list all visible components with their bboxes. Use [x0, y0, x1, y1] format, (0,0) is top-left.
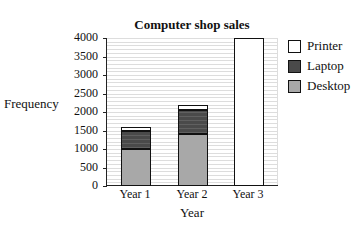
- legend-item-desktop: Desktop: [288, 76, 350, 96]
- y-tick-label: 3000: [58, 67, 98, 82]
- y-tick-label: 4000: [58, 30, 98, 45]
- legend-item-printer: Printer: [288, 36, 350, 56]
- y-tick-label: 1000: [58, 141, 98, 156]
- y-tick-mark: [103, 131, 107, 132]
- bar-year-3: [234, 38, 264, 186]
- gridline: [277, 38, 278, 186]
- bar-segment-laptop: [178, 110, 208, 134]
- y-tick-label: 500: [58, 160, 98, 175]
- legend-swatch: [288, 40, 301, 53]
- x-axis-label: Year: [106, 205, 278, 221]
- legend-label: Printer: [307, 38, 342, 54]
- legend-swatch: [288, 80, 301, 93]
- y-tick-mark: [103, 94, 107, 95]
- legend-swatch: [288, 60, 301, 73]
- y-tick-label: 2500: [58, 86, 98, 101]
- bar-segment-printer: [234, 38, 264, 186]
- y-axis-label: Frequency: [4, 96, 59, 112]
- plot-area: [106, 38, 278, 186]
- y-tick-label: 2000: [58, 104, 98, 119]
- y-tick-mark: [103, 75, 107, 76]
- chart-title: Computer shop sales: [106, 17, 278, 33]
- legend-label: Desktop: [307, 78, 350, 94]
- bar-segment-desktop: [121, 149, 151, 186]
- y-tick-mark: [103, 149, 107, 150]
- y-tick-mark: [103, 112, 107, 113]
- y-tick-label: 0: [58, 178, 98, 193]
- bar-segment-laptop: [121, 131, 151, 150]
- bar-segment-printer: [178, 105, 208, 111]
- legend: PrinterLaptopDesktop: [288, 36, 350, 96]
- y-tick-mark: [103, 168, 107, 169]
- legend-label: Laptop: [307, 58, 344, 74]
- bar-segment-printer: [121, 127, 151, 131]
- x-tick-label: Year 3: [220, 187, 276, 202]
- bar-segment-desktop: [178, 134, 208, 186]
- y-tick-label: 3500: [58, 49, 98, 64]
- x-tick-label: Year 2: [164, 187, 220, 202]
- bar-year-1: [121, 38, 151, 186]
- legend-item-laptop: Laptop: [288, 56, 350, 76]
- y-tick-label: 1500: [58, 123, 98, 138]
- y-tick-mark: [103, 38, 107, 39]
- y-tick-mark: [103, 57, 107, 58]
- x-tick-label: Year 1: [107, 187, 163, 202]
- bar-year-2: [178, 38, 208, 186]
